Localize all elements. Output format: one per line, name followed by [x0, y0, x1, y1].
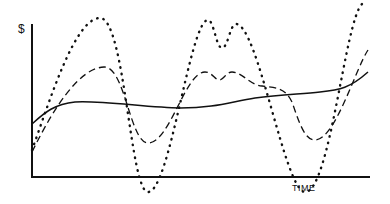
- series-dashed-line: [32, 50, 368, 152]
- chart-canvas: [0, 0, 390, 204]
- y-axis-label: $: [18, 22, 25, 36]
- x-axis-label: TIME: [292, 183, 316, 193]
- series-dotted-line: [32, 4, 362, 192]
- series-solid-line: [32, 72, 368, 124]
